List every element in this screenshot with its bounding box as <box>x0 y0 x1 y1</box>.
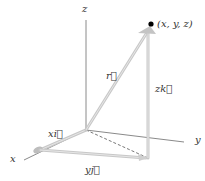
r-vector <box>86 26 156 130</box>
r-vector-label: r⃗ <box>106 70 117 81</box>
point-label: (x, y, z) <box>157 18 193 29</box>
zk-vector-label: zk⃗ <box>154 83 172 94</box>
z-axis-label: z <box>81 3 88 14</box>
y-axis <box>86 130 184 142</box>
xi-vector-label: xi⃗ <box>48 128 63 139</box>
r-arrowhead-icon <box>138 26 156 34</box>
point-marker <box>148 21 153 26</box>
y-axis-label: y <box>194 134 201 145</box>
vector-diagram: z y x (x, y, z) r⃗ zk⃗ xi⃗ yj⃗ <box>0 0 205 181</box>
yj-vector <box>40 150 148 161</box>
x-axis-label: x <box>10 153 16 164</box>
yj-vector-label: yj⃗ <box>84 164 100 175</box>
